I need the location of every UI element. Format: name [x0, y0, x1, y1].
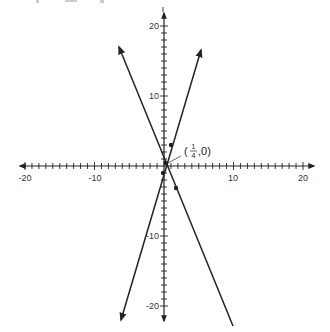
annotation-numerator: 1 [192, 143, 196, 150]
annotation-rest: ,0) [198, 145, 211, 157]
y-tick-label-10: 10 [149, 91, 159, 101]
cropped-equation-fragment [36, 0, 164, 12]
y-tick-label-neg10: -10 [146, 231, 159, 241]
point-rising-0-neg1 [161, 171, 165, 175]
rising-line [121, 50, 201, 320]
x-tick-label-20: 20 [298, 173, 308, 183]
x-tick-label-10: 10 [228, 173, 238, 183]
annotation-quarter-zero: ( 1 4 ,0) [184, 143, 211, 159]
point-intercept [163, 161, 167, 165]
point-rising-1-3 [169, 143, 173, 147]
annotation-open-paren: ( [184, 145, 188, 157]
y-tick-label-20: 20 [149, 21, 159, 31]
x-tick-label-neg20: -20 [18, 173, 31, 183]
annotation-denominator: 4 [192, 152, 196, 159]
y-tick-label-neg20: -20 [146, 301, 159, 311]
point-falling [174, 186, 178, 190]
x-tick-label-neg10: -10 [88, 173, 101, 183]
coordinate-plane: -20 -10 10 20 20 10 -10 -20 ( 1 4 ,0) [0, 0, 330, 332]
